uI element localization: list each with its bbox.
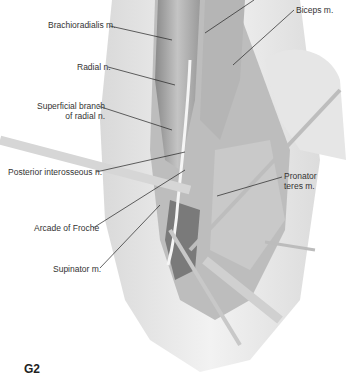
label-superficial-branch-line2: of radial n. <box>37 111 105 121</box>
label-biceps: Biceps m. <box>296 5 333 15</box>
figure-id: G2 <box>24 362 40 391</box>
label-supinator: Supinator m. <box>53 264 101 274</box>
label-arcade-of-frohse: Arcade of Froche <box>34 223 99 233</box>
label-posterior-interosseous: Posterior interosseous n. <box>8 167 102 177</box>
anatomical-illustration <box>0 0 346 391</box>
label-pronator-teres-line2: teres m. <box>284 181 317 191</box>
label-pronator-teres: Pronator teres m. <box>284 171 317 191</box>
label-pronator-teres-line1: Pronator <box>284 171 317 181</box>
label-superficial-branch: Superficial branch of radial n. <box>37 101 105 121</box>
label-radial-nerve: Radial n. <box>77 62 111 72</box>
label-brachioradialis: Brachioradialis m. <box>48 20 116 30</box>
label-superficial-branch-line1: Superficial branch <box>37 101 105 111</box>
